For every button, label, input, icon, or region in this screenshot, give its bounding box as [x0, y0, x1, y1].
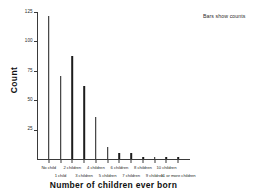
x-tick	[142, 159, 143, 163]
bar-chart: Bars show counts Count 255075100125 No c…	[0, 0, 271, 196]
x-tick	[131, 159, 132, 163]
plot-area: 255075100125 No child1 child2 children3 …	[37, 12, 190, 160]
bar	[60, 76, 62, 159]
bar	[83, 86, 85, 159]
y-tick: 100	[34, 41, 38, 42]
x-tick	[95, 159, 96, 163]
bar	[95, 117, 97, 159]
x-tick	[48, 159, 49, 163]
x-tick-label: 6 children	[111, 165, 129, 170]
x-tick-label: 3 children	[75, 173, 93, 178]
chart-annotation: Bars show counts	[203, 13, 246, 19]
y-tick: 125	[34, 12, 38, 13]
y-tick-label: 50	[27, 97, 32, 102]
x-axis-title: Number of children ever born	[37, 180, 190, 190]
x-tick	[72, 159, 73, 163]
y-axis-title: Count	[9, 55, 19, 105]
x-tick	[84, 159, 85, 163]
x-tick	[107, 159, 108, 163]
x-tick-label: 5 children	[99, 173, 117, 178]
x-tick-label: 8 children	[134, 165, 152, 170]
x-tick	[60, 159, 61, 163]
y-tick-label: 125	[25, 9, 33, 14]
x-tick-label: 2 children	[63, 165, 81, 170]
x-tick	[154, 159, 155, 163]
y-tick: 75	[34, 71, 38, 72]
bar	[72, 56, 74, 159]
x-tick-label: 10 children	[156, 165, 176, 170]
x-tick	[166, 159, 167, 163]
x-tick-label: No child	[41, 165, 56, 170]
x-tick	[119, 159, 120, 163]
bar	[48, 16, 50, 159]
y-tick: 25	[34, 130, 38, 131]
bar	[107, 147, 109, 159]
y-tick: 50	[34, 100, 38, 101]
y-tick-label: 25	[27, 126, 32, 131]
bars-layer	[37, 12, 190, 159]
y-tick-label: 100	[25, 38, 33, 43]
x-tick-label: 4 children	[87, 165, 105, 170]
x-tick-label: 7 children	[122, 173, 140, 178]
x-tick	[178, 159, 179, 163]
x-tick-label: 11 or more children	[161, 173, 196, 178]
x-tick-label: 1 child	[55, 173, 67, 178]
y-tick-label: 75	[27, 68, 32, 73]
